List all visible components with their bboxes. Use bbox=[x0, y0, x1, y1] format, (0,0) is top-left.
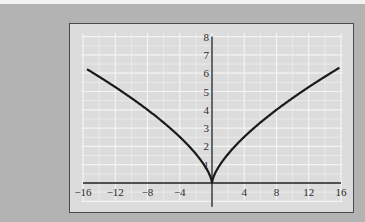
y-tick-label: 3 bbox=[204, 122, 210, 134]
x-tick-label: −12 bbox=[107, 186, 124, 198]
y-tick-label: 5 bbox=[204, 86, 210, 98]
y-tick-label: 7 bbox=[204, 49, 210, 61]
x-tick-label: −8 bbox=[142, 186, 154, 198]
x-tick-label: 4 bbox=[242, 186, 248, 198]
x-tick-label: 16 bbox=[336, 186, 348, 198]
x-tick-label: 8 bbox=[274, 186, 280, 198]
x-tick-label: −4 bbox=[174, 186, 186, 198]
y-tick-label: 6 bbox=[204, 67, 210, 79]
x-tick-label: 12 bbox=[303, 186, 314, 198]
y-tick-label: 2 bbox=[204, 140, 210, 152]
y-tick-label: 8 bbox=[204, 31, 210, 43]
y-tick-label: 4 bbox=[204, 104, 210, 116]
chart-plot: −16−12−8−4481216 12345678 bbox=[0, 0, 365, 222]
x-tick-label: −16 bbox=[74, 186, 92, 198]
